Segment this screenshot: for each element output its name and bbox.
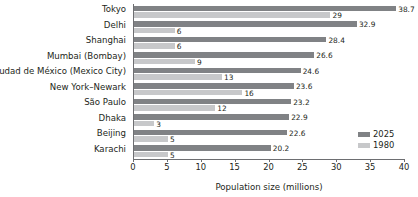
legend: 2025 1980	[358, 129, 416, 151]
bar-1980	[134, 136, 168, 142]
population-bar-chart: TokyoDelhiShanghaiMumbai (Bombay)Ciudad …	[0, 0, 418, 197]
tick-label: 0	[130, 163, 135, 172]
bar-2025	[134, 83, 294, 89]
bar-group: 22.93	[134, 113, 404, 129]
bar-group: 26.69	[134, 51, 404, 67]
tick-label: 30	[331, 163, 342, 172]
legend-swatch-2025	[358, 132, 370, 137]
category-label: New York–Newark	[50, 83, 126, 92]
bar-value-label: 26.6	[316, 52, 332, 59]
bar-1980	[134, 74, 222, 80]
legend-swatch-1980	[358, 143, 370, 148]
bar-value-label: 23.2	[293, 99, 309, 106]
legend-label-1980: 1980	[373, 140, 394, 151]
bar-2025	[134, 37, 326, 43]
category-label: Tokyo	[102, 5, 126, 14]
category-label: Dhaka	[99, 114, 126, 123]
tick-label: 40	[399, 163, 410, 172]
bar-2025	[134, 145, 271, 151]
bar-2025	[134, 21, 357, 27]
tick-label: 25	[297, 163, 308, 172]
tick-label: 10	[195, 163, 206, 172]
bar-1980	[134, 121, 154, 127]
bar-1980	[134, 105, 215, 111]
bar-1980	[134, 28, 175, 34]
tick-label: 15	[229, 163, 240, 172]
legend-item-1980[interactable]: 1980	[358, 140, 416, 151]
bar-value-label: 24.6	[303, 68, 319, 75]
bar-group: 24.613	[134, 66, 404, 82]
tick-label: 20	[263, 163, 274, 172]
bar-value-label: 22.9	[291, 114, 307, 121]
bar-value-label: 32.9	[359, 21, 375, 28]
bar-value-label: 38.7	[398, 6, 414, 13]
bar-group: 38.729	[134, 4, 404, 20]
bar-1980	[134, 59, 195, 65]
category-label: Ciudad de México (Mexico City)	[0, 67, 126, 76]
category-label: Delhi	[104, 21, 126, 30]
bar-1980	[134, 152, 168, 158]
x-axis-title: Population size (millions)	[133, 182, 405, 192]
legend-label-2025: 2025	[373, 129, 394, 140]
bar-2025	[134, 114, 289, 120]
bar-2025	[134, 52, 314, 58]
bar-2025	[134, 99, 291, 105]
category-label: Mumbai (Bombay)	[47, 52, 126, 61]
tick-label: 5	[164, 163, 169, 172]
x-axis-ticks: 0510152025303540	[133, 159, 408, 175]
bar-2025	[134, 68, 301, 74]
bar-value-label: 28.4	[328, 37, 344, 44]
bar-value-label: 22.6	[289, 130, 305, 137]
bar-2025	[134, 6, 396, 12]
bar-2025	[134, 130, 287, 136]
bar-1980	[134, 43, 175, 49]
category-label: Beijing	[97, 129, 126, 138]
category-axis: TokyoDelhiShanghaiMumbai (Bombay)Ciudad …	[0, 4, 130, 159]
bar-1980	[134, 12, 330, 18]
bar-group: 23.212	[134, 97, 404, 113]
bar-group: 23.616	[134, 82, 404, 98]
bar-group: 32.96	[134, 20, 404, 36]
category-label: Shanghai	[86, 36, 126, 45]
bar-1980	[134, 90, 242, 96]
bar-value-label: 23.6	[296, 83, 312, 90]
category-label: São Paulo	[84, 98, 126, 107]
legend-item-2025[interactable]: 2025	[358, 129, 416, 140]
tick-label: 35	[365, 163, 376, 172]
bar-value-label: 20.2	[273, 145, 289, 152]
category-label: Karachi	[94, 145, 126, 154]
bar-group: 28.46	[134, 35, 404, 51]
